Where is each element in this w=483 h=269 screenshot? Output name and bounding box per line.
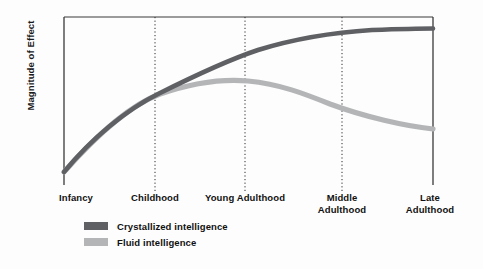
series-line-crystallized-intelligence <box>64 29 433 173</box>
x-tick-middle-adulthood-line-1: Middle <box>318 192 366 204</box>
x-tick-late-adulthood: Late Adulthood <box>406 192 454 215</box>
x-tick-young-adulthood: Young Adulthood <box>205 192 285 204</box>
series-line-fluid-intelligence <box>64 80 433 172</box>
legend-item-crystallized-intelligence: Crystallized intelligence <box>84 220 228 232</box>
legend-swatch-fluid-intelligence <box>84 238 108 246</box>
x-tick-infancy-line-1: Infancy <box>59 192 93 204</box>
x-tick-late-adulthood-line-1: Late <box>406 192 454 204</box>
x-tick-childhood: Childhood <box>131 192 179 204</box>
x-tick-middle-adulthood: Middle Adulthood <box>318 192 366 215</box>
chart-plot-svg <box>0 0 483 269</box>
x-tick-middle-adulthood-line-2: Adulthood <box>318 204 366 216</box>
chart-figure: Magnitude of Effect Infancy Childhood Yo… <box>0 0 483 269</box>
legend-item-fluid-intelligence: Fluid intelligence <box>84 236 228 248</box>
chart-legend: Crystallized intelligence Fluid intellig… <box>84 220 228 252</box>
x-tick-childhood-line-1: Childhood <box>131 192 179 204</box>
legend-swatch-crystallized-intelligence <box>84 222 108 230</box>
legend-label-fluid-intelligence: Fluid intelligence <box>117 237 196 248</box>
x-tick-late-adulthood-line-2: Adulthood <box>406 204 454 216</box>
x-tick-young-adulthood-line-1: Young Adulthood <box>205 192 285 204</box>
x-tick-infancy: Infancy <box>59 192 93 204</box>
legend-label-crystallized-intelligence: Crystallized intelligence <box>117 221 228 232</box>
